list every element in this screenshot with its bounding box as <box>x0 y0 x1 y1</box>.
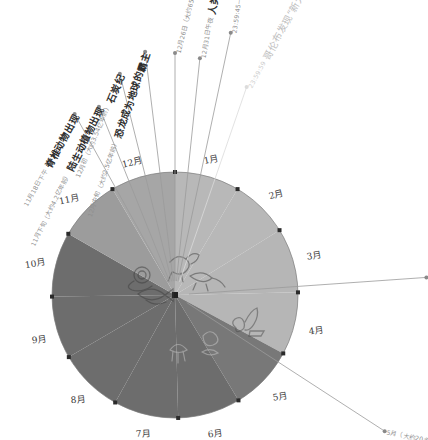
pie-tick-marker <box>176 416 180 420</box>
pie-chart-svg <box>0 0 428 440</box>
callout-endpoint-carboniferous <box>118 72 122 76</box>
pie-tick-marker <box>278 228 282 232</box>
callout-endpoint-columbus <box>245 85 249 89</box>
callout-endpoint-ocean-primitive-life <box>383 429 387 433</box>
callout-endpoint-dinosaur-rule <box>143 50 147 54</box>
pie-tick-marker <box>110 187 114 191</box>
cosmic-calendar-figure: 1月2月3月4月5月6月7月8月9月10月11月12月 11月18日下午脊椎动物… <box>0 0 428 440</box>
pie-tick-marker <box>50 295 54 299</box>
pie-tick-marker <box>281 351 285 355</box>
pie-tick-marker <box>113 400 117 404</box>
callout-endpoint-humans <box>198 56 202 60</box>
callout-endpoint-vertebrates <box>73 112 77 116</box>
callout-endpoint-earliest-life <box>424 275 428 279</box>
pie-tick-marker <box>67 355 71 359</box>
callout-endpoint-dinosaur-extinct <box>173 51 177 55</box>
pie-tick-marker <box>236 187 240 191</box>
pie-tick-marker <box>66 232 70 236</box>
callout-endpoint-land-life <box>97 105 101 109</box>
pie-tick-marker <box>236 398 240 402</box>
pie-tick-marker <box>296 290 300 294</box>
callout-endpoint-roman-empire <box>229 31 233 35</box>
